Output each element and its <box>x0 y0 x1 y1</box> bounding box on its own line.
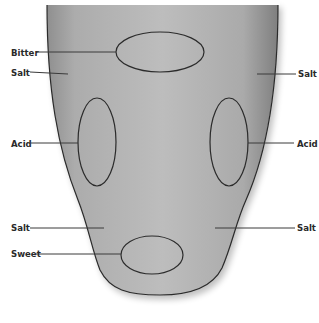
tongue-shape <box>47 4 278 295</box>
label-salt-lower-right: Salt <box>297 222 316 233</box>
label-salt-upper-left: Salt <box>11 67 30 78</box>
top-crop <box>46 0 280 5</box>
label-acid-left: Acid <box>11 138 32 149</box>
tongue-diagram-svg: Bitter Salt Salt Acid Acid Salt Sweet Sa… <box>0 0 319 323</box>
tongue-diagram: Bitter Salt Salt Acid Acid Salt Sweet Sa… <box>0 0 319 323</box>
label-sweet: Sweet <box>11 248 41 259</box>
label-salt-lower-left: Salt <box>11 222 30 233</box>
label-salt-upper-right: Salt <box>298 68 317 79</box>
label-bitter: Bitter <box>11 47 39 58</box>
label-acid-right: Acid <box>297 138 318 149</box>
